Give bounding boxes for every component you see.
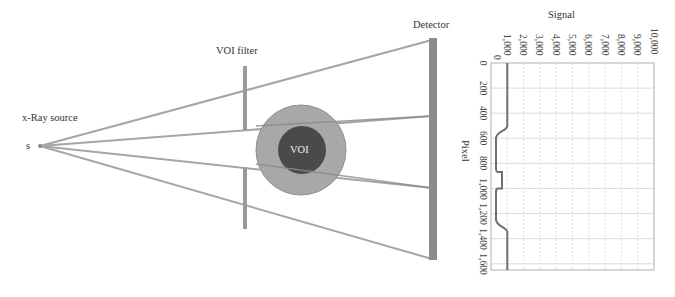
filter-top-segment (243, 66, 247, 130)
x-tick: 1,000 (502, 34, 512, 56)
y-tick: 800 (478, 156, 488, 171)
x-tick: 9,000 (632, 34, 642, 56)
y-tick: 1,000 (478, 178, 488, 200)
y-tick: 200 (478, 81, 488, 96)
x-tick: 3,000 (534, 34, 544, 56)
voi-label: VOI (290, 144, 309, 155)
filter-bottom-segment (243, 167, 247, 229)
voi-diagram: x-Ray source s VOI filter VOI Detector S… (0, 0, 675, 297)
voi-filter (243, 66, 247, 229)
filter-label: VOI filter (216, 45, 258, 56)
ray-bottom (40, 146, 432, 259)
ray-inner-bottom (40, 146, 432, 188)
source-label: x-Ray source (22, 112, 78, 123)
signal-chart: Signal 0 1,0 (460, 9, 659, 275)
x-tick: 5,000 (567, 34, 577, 56)
x-ray-beams (40, 40, 432, 259)
x-axis-ticks: 0 1,000 2,000 3,000 4,000 5,000 6,000 7,… (492, 28, 659, 60)
x-tick: 6,000 (583, 34, 593, 56)
y-tick: 400 (478, 106, 488, 121)
y-tick: 600 (478, 131, 488, 146)
x-tick: 7,000 (600, 34, 610, 56)
chart-title: Signal (548, 9, 575, 20)
y-axis-ticks: 0 200 400 600 800 1,000 1,200 1,400 1,60… (478, 61, 488, 275)
chart-grid (491, 63, 654, 270)
y-axis-label: Pixel (460, 140, 471, 162)
y-tick: 0 (478, 61, 488, 66)
x-tick: 10,000 (649, 28, 659, 54)
y-tick: 1,200 (478, 203, 488, 225)
y-tick: 1,400 (478, 228, 488, 250)
x-tick: 2,000 (518, 34, 528, 56)
detector-label: Detector (413, 19, 450, 30)
y-tick: 1,600 (478, 253, 488, 275)
source-point-label: s (26, 140, 30, 151)
x-tick: 4,000 (551, 34, 561, 56)
x-tick: 8,000 (616, 34, 626, 56)
detector-bar (429, 38, 437, 260)
x-tick: 0 (492, 55, 502, 60)
source-point-icon (38, 144, 42, 148)
